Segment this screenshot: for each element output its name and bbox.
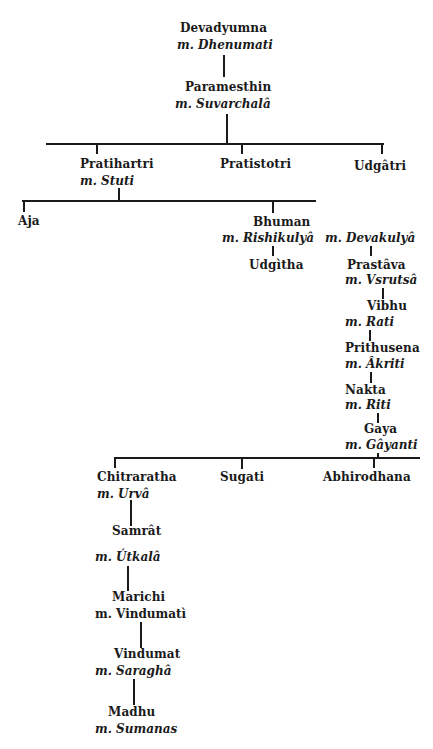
- node-vibhu: Vibhu: [367, 299, 407, 313]
- node-nakta: Nakta: [345, 383, 386, 397]
- node-abhirodhana: Abhirodhana: [323, 470, 411, 484]
- line-prastava-vibhu: [382, 288, 384, 299]
- drop-sugati: [241, 457, 243, 469]
- node-udgatri: Udgâtri: [354, 159, 406, 173]
- spouse-rishikulya: m. Rishikulyâ: [222, 231, 314, 245]
- drop-pratistotri: [241, 143, 243, 154]
- line-paramesthin-down: [226, 114, 228, 143]
- drop-bhuman: [272, 200, 274, 213]
- spouse-rati: m. Rati: [345, 315, 394, 329]
- node-devadyumna: Devadyumna: [180, 21, 267, 35]
- line-bhuman-udgitha: [272, 246, 274, 256]
- node-vindumat: Vindumat: [114, 647, 180, 661]
- spouse-saragha: m. Saraghâ: [95, 664, 171, 678]
- node-madhu: Madhu: [108, 705, 155, 719]
- node-samrat: Samrât: [112, 524, 161, 538]
- node-prithusena: Prithusena: [345, 341, 420, 355]
- spouse-gayanti: m. Gâyanti: [345, 438, 418, 452]
- spouse-sumanas: m. Sumanas: [95, 722, 177, 736]
- spouse-devakulya: m. Devakulyâ: [325, 231, 415, 245]
- spouse-stuti: m. Stuti: [80, 174, 134, 188]
- node-sugati: Sugati: [220, 470, 264, 484]
- spouse-vindumati: m. Vindumatì: [95, 607, 186, 621]
- node-chitraratha: Chitraratha: [97, 470, 177, 484]
- node-aja: Aja: [18, 214, 40, 228]
- drop-chitraratha: [114, 457, 116, 468]
- node-marichi: Marichi: [112, 590, 165, 604]
- node-gaya: Gaya: [364, 422, 397, 436]
- spouse-utkala: m. Útkalâ: [95, 550, 160, 564]
- spouse-suvarchala: m. Suvarchalâ: [175, 97, 271, 111]
- spouse-urva: m. Urvâ: [97, 487, 150, 501]
- spouse-akriti: m. Âkriti: [345, 357, 405, 371]
- node-pratihartri: Pratihartri: [80, 157, 154, 171]
- line-prithusena-nakta: [370, 372, 372, 383]
- spouse-riti: m. Riti: [345, 398, 391, 412]
- line-vindumat-madhu: [133, 679, 135, 705]
- spouse-vsrutsa: m. Vsrutsâ: [345, 273, 417, 287]
- line-chitraratha-samrat: [130, 500, 132, 526]
- line-devadyumna-paramesthin: [223, 55, 225, 77]
- node-udgitha: Udgìtha: [249, 258, 304, 272]
- line-marichi-vindumat: [140, 622, 142, 648]
- spouse-dhenumati: m. Dhenumati: [177, 38, 273, 52]
- node-prastava: Prastâva: [347, 258, 406, 272]
- drop-pratihartri: [96, 143, 98, 154]
- node-bhuman: Bhuman: [253, 215, 310, 229]
- drop-udgatri: [381, 143, 383, 154]
- drop-aja: [23, 200, 25, 212]
- drop-abhirodhana: [373, 457, 375, 468]
- node-paramesthin: Paramesthin: [185, 80, 271, 94]
- node-pratistotri: Pratistotri: [220, 157, 291, 171]
- line-devakulya-prastava: [370, 246, 372, 256]
- line-samrat-marichi: [127, 566, 129, 591]
- line-vibhu-prithusena: [369, 330, 371, 341]
